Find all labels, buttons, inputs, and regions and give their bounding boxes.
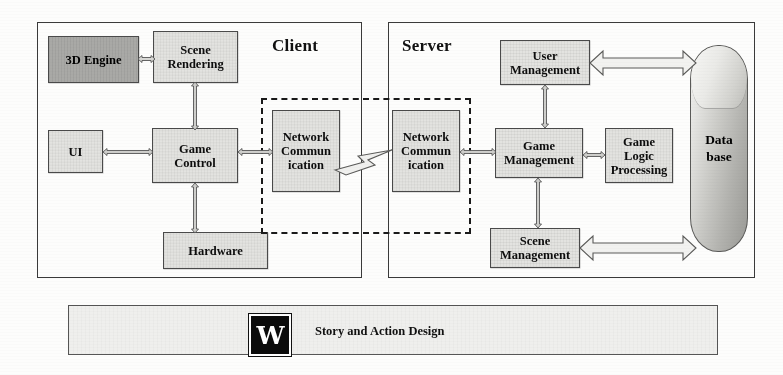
node-server-network-communication-label-1: Network — [399, 130, 453, 144]
node-client-network-communication[interactable]: Network Commun ication — [272, 110, 340, 192]
node-game-management-label-1: Game — [502, 139, 576, 153]
architecture-diagram: Client 3D Engine Scene Rendering UI Game… — [0, 0, 783, 375]
connector-scene-management-database — [580, 233, 696, 263]
node-server-network-communication[interactable]: Network Commun ication — [392, 110, 460, 192]
connector-3d-engine-scene-rendering — [138, 52, 155, 66]
node-database-label-1: Data — [705, 132, 733, 147]
node-scene-rendering[interactable]: Scene Rendering — [153, 31, 238, 83]
node-ui[interactable]: UI — [48, 130, 103, 173]
node-user-management[interactable]: User Management — [500, 40, 590, 85]
node-database[interactable]: Data base — [690, 45, 748, 252]
node-game-logic-processing-label-2: Logic — [609, 149, 670, 163]
node-user-management-label-1: User — [508, 49, 582, 63]
connector-game-management-user-management — [538, 85, 552, 128]
node-scene-management[interactable]: Scene Management — [490, 228, 580, 268]
node-game-control-label-1: Game — [172, 142, 217, 156]
node-game-logic-processing[interactable]: Game Logic Processing — [605, 128, 673, 183]
connector-game-management-scene-management — [531, 178, 545, 228]
node-scene-management-label-1: Scene — [498, 234, 572, 248]
client-frame-title: Client — [272, 36, 318, 56]
node-game-logic-processing-label-1: Game — [609, 135, 670, 149]
node-scene-rendering-label-1: Scene — [165, 43, 225, 57]
node-database-label-2: base — [706, 149, 732, 164]
w-logo-letter: W — [251, 316, 289, 354]
node-game-management[interactable]: Game Management — [495, 128, 583, 178]
connector-server-network-game-management — [460, 145, 496, 159]
node-ui-label: UI — [67, 145, 85, 159]
database-cylinder-top — [691, 46, 747, 109]
node-server-network-communication-label-3: ication — [399, 158, 453, 172]
node-3d-engine-label: 3D Engine — [64, 53, 124, 67]
node-server-network-communication-label-2: Commun — [399, 144, 453, 158]
node-scene-management-label-2: Management — [498, 248, 572, 262]
node-scene-rendering-label-2: Rendering — [165, 57, 225, 71]
connector-user-management-database — [590, 48, 696, 78]
connector-game-control-client-network — [238, 145, 273, 159]
node-game-control[interactable]: Game Control — [152, 128, 238, 183]
node-game-control-label-2: Control — [172, 156, 217, 170]
connector-ui-game-control — [103, 145, 153, 159]
node-hardware-label: Hardware — [186, 244, 245, 258]
connector-game-management-game-logic — [583, 148, 605, 162]
node-hardware[interactable]: Hardware — [163, 232, 268, 269]
connector-game-control-scene-rendering — [188, 82, 202, 130]
node-game-logic-processing-label-3: Processing — [609, 163, 670, 177]
lightning-bolt-icon — [334, 148, 396, 180]
node-client-network-communication-label-3: ication — [279, 158, 333, 172]
node-user-management-label-2: Management — [508, 63, 582, 77]
node-client-network-communication-label-2: Commun — [279, 144, 333, 158]
server-frame-title: Server — [402, 36, 452, 56]
node-game-management-label-2: Management — [502, 153, 576, 167]
story-action-design-label: Story and Action Design — [315, 324, 445, 339]
node-client-network-communication-label-1: Network — [279, 130, 333, 144]
connector-game-control-hardware — [188, 183, 202, 233]
w-logo-icon: W — [248, 313, 292, 357]
node-3d-engine[interactable]: 3D Engine — [48, 36, 139, 83]
